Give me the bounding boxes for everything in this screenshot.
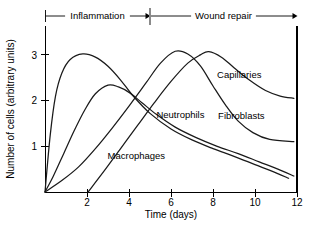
series-curve-capillaries bbox=[88, 52, 294, 192]
x-axis-title: Time (days) bbox=[145, 209, 197, 220]
y-tick-label: 3 bbox=[31, 50, 37, 61]
chart-figure: InflammationWound repair 123 24681012 Ne… bbox=[0, 0, 322, 228]
series-label-macrophages: Macrophages bbox=[108, 150, 166, 161]
series-label-neutrophils: Neutrophils bbox=[156, 109, 204, 120]
phase-annotation-bar: InflammationWound repair bbox=[46, 8, 298, 25]
inflammation-phase-label: Inflammation bbox=[70, 10, 124, 21]
cell-population-line-chart: InflammationWound repair 123 24681012 Ne… bbox=[0, 0, 322, 228]
x-tick-label: 12 bbox=[291, 197, 303, 208]
series-label-capillaries: Capillaries bbox=[217, 69, 262, 80]
x-tick-label: 2 bbox=[84, 197, 90, 208]
x-tick-label: 6 bbox=[168, 197, 174, 208]
y-axis-title: Number of cells (arbitrary units) bbox=[5, 39, 16, 178]
wound-repair-phase-arrow-icon bbox=[293, 13, 298, 19]
x-axis-ticks: 24681012 bbox=[84, 189, 303, 209]
inflammation-phase: Inflammation bbox=[46, 10, 151, 22]
series-label-fibroblasts: Fibroblasts bbox=[218, 110, 265, 121]
y-tick-label: 1 bbox=[31, 141, 37, 152]
x-tick-label: 4 bbox=[126, 197, 132, 208]
wound-repair-phase: Wound repair bbox=[151, 10, 298, 22]
series-curve-macrophages bbox=[45, 85, 294, 192]
series-labels: NeutrophilsMacrophagesFibroblastsCapilla… bbox=[108, 69, 265, 161]
x-tick-label: 10 bbox=[249, 197, 261, 208]
y-axis-ticks: 123 bbox=[31, 50, 49, 152]
wound-repair-phase-label: Wound repair bbox=[195, 10, 252, 21]
x-tick-label: 8 bbox=[210, 197, 216, 208]
y-tick-label: 2 bbox=[31, 95, 37, 106]
